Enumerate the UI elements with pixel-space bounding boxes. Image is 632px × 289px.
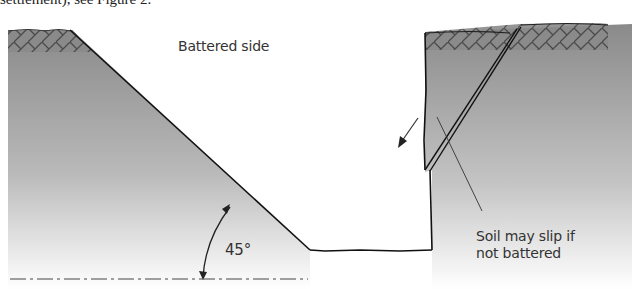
angle-label: 45° [225, 242, 251, 259]
left-soil-mass [8, 30, 310, 289]
soil-slip-label-line2: not battered [476, 245, 561, 262]
soil-slip-label-line1: Soil may slip if [476, 228, 575, 245]
battered-side-label: Battered side [178, 38, 269, 55]
trench-floor-line [310, 250, 432, 251]
slip-direction-arrow-icon [398, 118, 418, 148]
